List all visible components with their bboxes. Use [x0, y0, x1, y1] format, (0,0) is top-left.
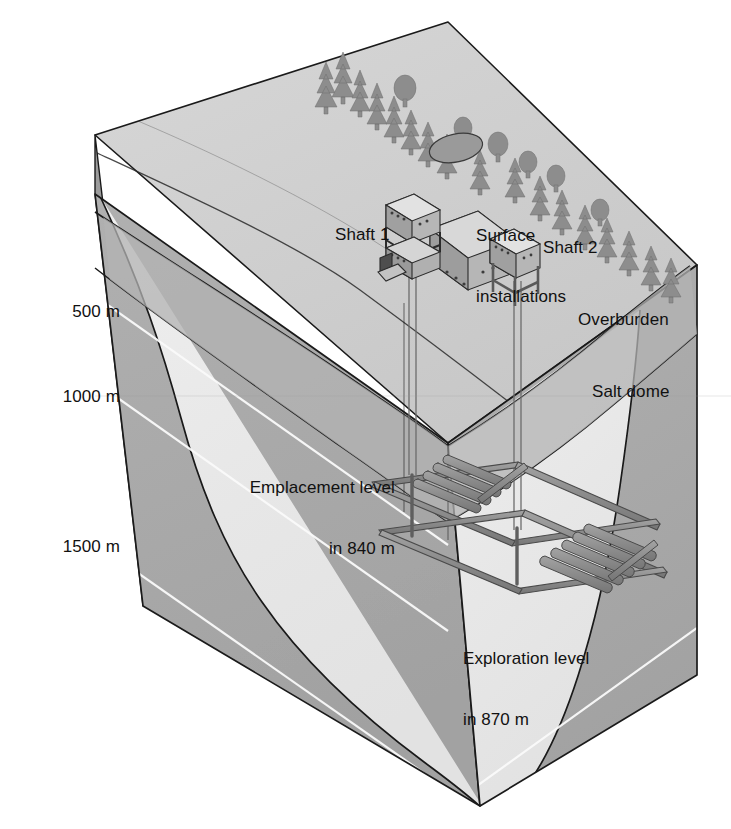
- surface-installations-line1: Surface: [476, 226, 566, 246]
- layer-label-overburden: Overburden: [578, 310, 669, 330]
- exploration-level-line1: Exploration level: [463, 649, 663, 669]
- surface-installations-line2: installations: [476, 287, 566, 307]
- exploration-level-line2: in 870 m: [463, 710, 663, 730]
- shaft1-label: Shaft 1: [335, 225, 390, 245]
- depth-tick-1500: 1500 m: [22, 537, 120, 557]
- layer-label-salt-dome: Salt dome: [592, 382, 669, 402]
- depth-tick-1000: 1000 m: [22, 387, 120, 407]
- exploration-level-label: Exploration level in 870 m: [463, 608, 663, 771]
- emplacement-level-label: Emplacement level in 840 m: [215, 437, 395, 600]
- diagram-canvas: 500 m 1000 m 1500 m Overburden Salt dome…: [0, 0, 731, 829]
- surface-installations-label: Surface installations: [476, 185, 566, 348]
- emplacement-level-line1: Emplacement level: [215, 478, 395, 498]
- depth-tick-500: 500 m: [32, 302, 120, 322]
- emplacement-level-line2: in 840 m: [215, 539, 395, 559]
